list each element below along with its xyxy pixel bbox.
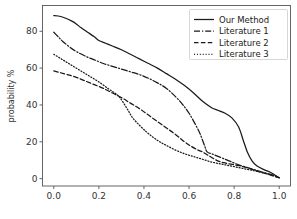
x-tick-label: 0.6 xyxy=(182,191,197,201)
x-tick-label: 0.8 xyxy=(227,191,242,201)
chart-legend[interactable]: Our MethodLiterature 1Literature 2Litera… xyxy=(190,10,288,60)
chart-figure: 020406080 0.00.20.40.60.81.0 probability… xyxy=(0,0,297,219)
y-tick-label: 60 xyxy=(26,63,38,73)
x-tick-label: 1.0 xyxy=(272,191,287,201)
legend-label-literature-1: Literature 1 xyxy=(219,26,269,36)
legend-label-literature-3: Literature 3 xyxy=(219,49,269,59)
y-axis-tick-labels: 020406080 xyxy=(26,26,38,183)
y-tick-label: 80 xyxy=(26,26,38,36)
y-axis-title: probability % xyxy=(7,69,16,122)
chart-canvas: 020406080 0.00.20.40.60.81.0 probability… xyxy=(0,0,297,219)
y-tick-label: 40 xyxy=(26,100,38,110)
legend-label-our-method: Our Method xyxy=(219,15,269,25)
y-tick-label: 20 xyxy=(26,137,38,147)
y-tick-label: 0 xyxy=(32,174,38,184)
x-tick-label: 0.2 xyxy=(92,191,106,201)
legend-label-literature-2: Literature 2 xyxy=(219,38,269,48)
x-tick-label: 0.4 xyxy=(137,191,152,201)
series-line-literature-2 xyxy=(54,71,279,178)
x-axis-tick-labels: 0.00.20.40.60.81.0 xyxy=(47,191,287,201)
x-tick-label: 0.0 xyxy=(47,191,62,201)
series-line-literature-3 xyxy=(54,54,279,177)
